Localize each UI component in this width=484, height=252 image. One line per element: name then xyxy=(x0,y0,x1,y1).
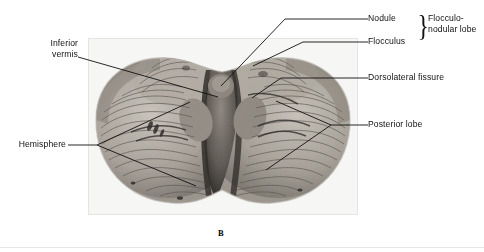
anatomy-figure: Inferior vermis Hemisphere Nodule Floccu… xyxy=(0,0,484,252)
label-inferior-vermis: Inferior vermis xyxy=(0,38,78,60)
label-flocculonodular-line1: Flocculo- xyxy=(428,13,464,23)
page-divider xyxy=(0,247,484,248)
label-nodule: Nodule xyxy=(368,13,396,24)
label-inferior-vermis-line1: Inferior xyxy=(50,38,78,48)
label-hemisphere: Hemisphere xyxy=(0,139,66,150)
figure-caption: B xyxy=(218,228,224,238)
label-flocculonodular-line2: nodular lobe xyxy=(428,24,477,34)
label-inferior-vermis-line2: vermis xyxy=(52,49,78,59)
label-posterior-lobe: Posterior lobe xyxy=(368,119,422,130)
label-flocculus: Flocculus xyxy=(368,36,405,47)
label-dorsolateral-fissure: Dorsolateral fissure xyxy=(368,72,444,83)
label-flocculonodular-lobe: Flocculo- nodular lobe xyxy=(428,13,477,35)
photograph xyxy=(88,38,358,216)
